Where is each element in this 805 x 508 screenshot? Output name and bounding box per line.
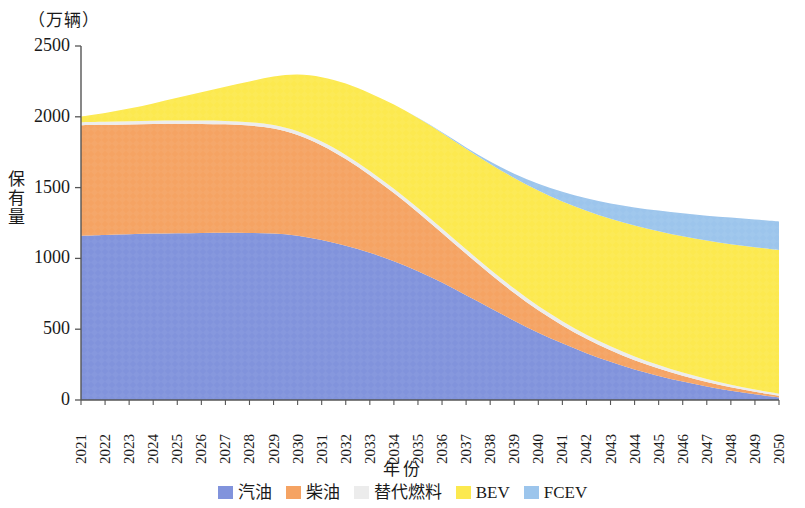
legend-swatch-icon (218, 486, 233, 499)
legend-label: 柴油 (306, 484, 340, 501)
chart-legend: 汽油柴油替代燃料BEVFCEV (0, 484, 805, 501)
legend-label: 替代燃料 (374, 484, 442, 501)
x-axis-title: 年份 (0, 455, 805, 480)
legend-swatch-icon (286, 486, 301, 499)
legend-swatch-icon (354, 486, 369, 499)
legend-swatch-icon (456, 486, 471, 499)
stacked-area-chart: （万辆） 保有量 05001000150020002500 2021202220… (0, 0, 805, 508)
legend-swatch-icon (524, 486, 539, 499)
legend-label: BEV (476, 484, 510, 501)
legend-item-汽油[interactable]: 汽油 (218, 484, 272, 501)
legend-item-FCEV[interactable]: FCEV (524, 484, 587, 501)
legend-item-BEV[interactable]: BEV (456, 484, 510, 501)
legend-item-柴油[interactable]: 柴油 (286, 484, 340, 501)
legend-item-替代燃料[interactable]: 替代燃料 (354, 484, 442, 501)
legend-label: 汽油 (238, 484, 272, 501)
legend-label: FCEV (544, 484, 587, 501)
